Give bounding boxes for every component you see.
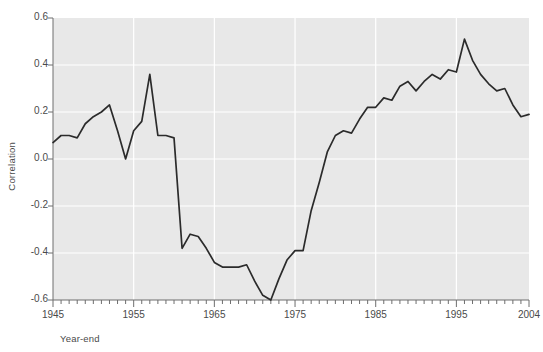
x-tick-label: 1975 [277,309,313,320]
y-tick-label: 0.4 [10,58,48,69]
y-tick-label: -0.4 [10,246,48,257]
x-tick-label: 1995 [438,309,474,320]
y-tick-label: 0.2 [10,105,48,116]
y-axis-ticks [48,18,53,300]
x-axis-title: Year-end [60,333,100,344]
y-tick-label: -0.6 [10,293,48,304]
x-tick-label: 1945 [35,309,71,320]
x-tick-label: 2004 [511,309,543,320]
y-axis-title: Correlation [6,142,17,191]
y-tick-label: -0.2 [10,199,48,210]
x-tick-label: 1955 [116,309,152,320]
x-tick-label: 1985 [358,309,394,320]
x-axis-ticks [53,300,529,307]
correlation-line-chart: 0.60.40.20.0-0.2-0.4-0.6 194519551965197… [0,0,543,352]
y-tick-label: 0.6 [10,11,48,22]
x-tick-label: 1965 [196,309,232,320]
chart-canvas [0,0,543,352]
